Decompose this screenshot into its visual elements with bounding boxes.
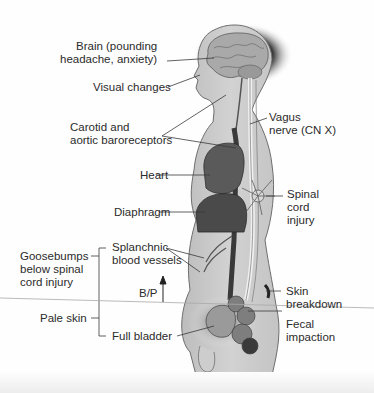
label-brain: Brain (pounding headache, anxiety) xyxy=(60,40,157,66)
label-bp: B/P xyxy=(139,287,158,300)
label-pale-skin: Pale skin xyxy=(40,312,87,325)
label-spinal-cord-injury: Spinal cord injury xyxy=(287,188,319,227)
label-diaphragm: Diaphragm xyxy=(114,206,170,219)
diagram-canvas: Brain (pounding headache, anxiety) Visua… xyxy=(0,0,374,393)
label-heart: Heart xyxy=(140,169,168,182)
heart-organ xyxy=(204,143,244,193)
label-skin-breakdown: Skin breakdown xyxy=(286,285,342,311)
label-vagus-nerve: Vagus nerve (CN X) xyxy=(269,111,336,137)
bp-up-arrow-icon xyxy=(160,276,166,302)
label-splanchnic-vessels: Splanchnic blood vessels xyxy=(112,241,182,267)
label-fecal-impaction: Fecal impaction xyxy=(286,318,335,344)
bottom-fade xyxy=(0,372,374,393)
label-visual-changes: Visual changes xyxy=(93,81,171,94)
label-goosebumps: Goosebumps below spinal cord injury xyxy=(20,250,88,289)
label-baroreceptors: Carotid and aortic baroreceptors xyxy=(70,121,172,147)
label-full-bladder: Full bladder xyxy=(112,330,172,343)
